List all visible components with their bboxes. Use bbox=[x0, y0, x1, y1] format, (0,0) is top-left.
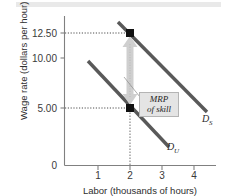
y-tick-label-0: 0 bbox=[51, 160, 57, 171]
mrp-double-arrow bbox=[123, 36, 138, 105]
mrp-annotation-box: MRP of skill bbox=[139, 92, 179, 117]
curve-label-du-subscript: U bbox=[174, 147, 180, 155]
y-tick-label-5.00: 5.00 bbox=[38, 103, 58, 114]
chart-screenshot: 12.50 10.00 5.00 0 1 2 3 4 D S D U MRP o… bbox=[0, 0, 231, 196]
y-axis-title-text: Wage rate (dollars per hour) bbox=[18, 2, 29, 120]
y-axis-title: Wage rate (dollars per hour) bbox=[13, 10, 31, 120]
y-tick-label-10.00: 10.00 bbox=[32, 53, 57, 64]
marker-skilled-equilibrium bbox=[126, 29, 134, 37]
x-axis-title-text: Labor (thousands of hours) bbox=[83, 185, 197, 196]
mrp-annotation-line2: of skill bbox=[147, 105, 171, 115]
wage-labor-chart: 12.50 10.00 5.00 0 1 2 3 4 D S D U bbox=[0, 0, 231, 196]
x-axis-title: Labor (thousands of hours) bbox=[60, 180, 220, 196]
marker-unskilled-equilibrium bbox=[126, 104, 134, 112]
y-tick-label-12.50: 12.50 bbox=[32, 28, 57, 39]
curve-label-ds-subscript: S bbox=[209, 119, 213, 127]
